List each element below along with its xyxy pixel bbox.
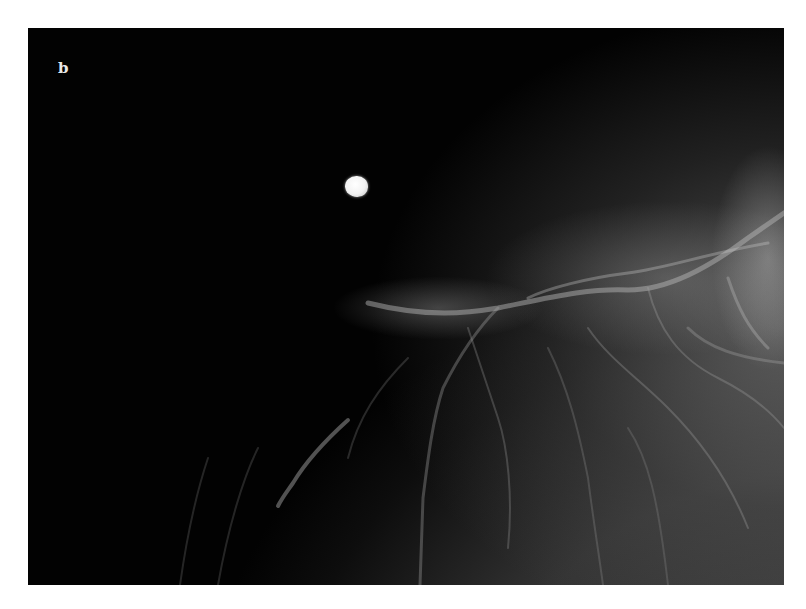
nodule-opacity — [345, 176, 368, 197]
fibrous-strands — [28, 28, 784, 585]
panel-label: b — [58, 59, 69, 77]
mammogram-image: b — [28, 28, 784, 585]
